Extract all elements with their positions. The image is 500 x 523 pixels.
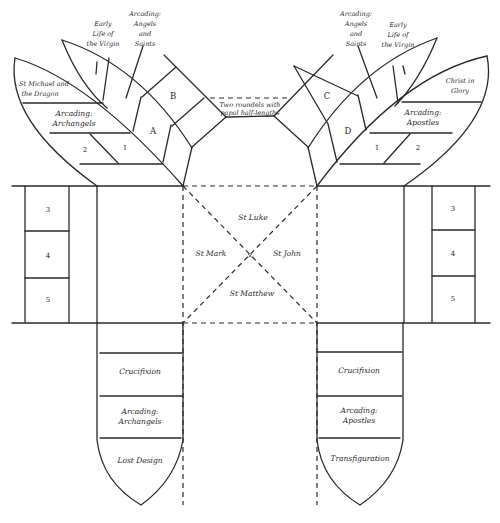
left-angels-saints-label-3: and — [139, 30, 151, 38]
center-mark: × — [247, 252, 253, 260]
vault-layout-diagram: × St Luke St Mark St John St Matthew 3 4… — [0, 0, 500, 523]
right-early-life-label-1: Early — [388, 21, 407, 29]
right-lower-arcading-label-1: Arcading: — [339, 406, 378, 415]
left-side-panels: 3 4 5 — [25, 186, 97, 323]
left-early-life-label-1: Early — [93, 20, 112, 28]
label-st-mark: St Mark — [196, 249, 227, 258]
roundels-label-1: Two roundels with — [220, 101, 281, 109]
right-christ-label-2: Glory — [451, 87, 469, 95]
left-wing-panel-1: 1 — [123, 144, 127, 152]
left-angels-saints-label-4: Saints — [135, 40, 156, 48]
central-crossing: × St Luke St Mark St John St Matthew — [183, 186, 317, 505]
right-angels-saints-label-4: Saints — [346, 40, 367, 48]
roundels-label-2: papal half-lengths — [220, 109, 280, 117]
left-wing-panel-2: 2 — [83, 146, 87, 154]
left-lower-shield: Crucifixion Arcading: Archangels Lost De… — [97, 323, 183, 505]
left-early-life-label-3: the Virgin — [87, 40, 120, 48]
left-early-life-label-2: Life of — [91, 30, 115, 38]
left-st-michael-label-1: St Michael and — [19, 80, 69, 88]
left-panel-4: 4 — [46, 252, 51, 260]
label-box-a: A — [149, 126, 157, 136]
label-st-matthew: St Matthew — [230, 289, 275, 298]
left-lower-arcading-label-1: Arcading: — [120, 407, 159, 416]
right-lower-arcading-label-2: Apostles — [342, 416, 375, 425]
label-box-c: C — [324, 91, 331, 101]
right-wing-panel-2: 2 — [416, 144, 420, 152]
left-st-michael-label-2: the Dragon — [21, 90, 58, 98]
right-panel-4: 4 — [451, 250, 456, 258]
left-arcading-archangels-2: Archangels — [52, 119, 96, 128]
left-panel-3: 3 — [46, 206, 50, 214]
left-panel-5: 5 — [46, 296, 50, 304]
right-early-life-label-2: Life of — [386, 31, 410, 39]
right-side-panels: 3 4 5 — [404, 186, 475, 323]
label-st-luke: St Luke — [238, 213, 268, 222]
right-early-life-label-3: the Virgin — [382, 41, 415, 49]
left-arcading-archangels-1: Arcading: — [54, 109, 93, 118]
right-transfiguration-label: Transfiguration — [330, 454, 389, 463]
right-panel-3: 3 — [451, 205, 455, 213]
left-angels-saints-label-2: Angels — [133, 20, 157, 28]
right-angels-saints-label-1: Arcading: — [339, 10, 372, 18]
left-lower-arcading-label-2: Archangels — [118, 417, 162, 426]
left-crucifixion-label: Crucifixion — [119, 367, 161, 376]
right-lower-shield: Crucifixion Arcading: Apostles Transfigu… — [317, 323, 403, 505]
right-arcading-apostles-1: Arcading: — [403, 108, 442, 117]
right-christ-label-1: Christ in — [446, 77, 475, 85]
right-angels-saints-label-3: and — [350, 30, 362, 38]
label-box-b: B — [170, 91, 176, 101]
left-angels-saints-label-1: Arcading: — [128, 10, 161, 18]
right-upper-wings: Christ in Glory Arcading: Apostles 1 2 A… — [274, 10, 489, 186]
right-crucifixion-label: Crucifixion — [338, 366, 380, 375]
left-upper-wings: St Michael and the Dragon Arcading: Arch… — [14, 10, 226, 186]
roundels-connector: Two roundels with papal half-lengths — [210, 98, 290, 117]
left-lost-design-label: Lost Design — [116, 456, 162, 465]
right-panel-5: 5 — [451, 295, 455, 303]
right-wing-panel-1: 1 — [375, 144, 379, 152]
label-box-d: D — [345, 126, 352, 136]
right-angels-saints-label-2: Angels — [344, 20, 368, 28]
right-arcading-apostles-2: Apostles — [406, 118, 439, 127]
label-st-john: St John — [273, 249, 301, 258]
